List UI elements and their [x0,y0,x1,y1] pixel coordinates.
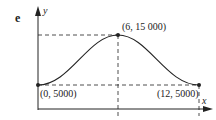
y-axis-label: y [42,5,48,16]
point-end-label: (12, 5000) [157,88,199,100]
chart: e y x (0, 5000) (6, 15 000) (12, 5000) [0,0,216,120]
point-end [197,83,201,87]
curve [38,35,199,85]
point-start [36,83,40,87]
point-start-label: (0, 5000) [40,88,77,100]
point-peak [116,33,120,37]
x-axis-arrow-icon [203,106,213,112]
panel-label: e [15,11,21,25]
x-axis-label: x [201,95,207,106]
y-axis-arrow-icon [35,6,41,16]
point-peak-label: (6, 15 000) [122,21,166,33]
